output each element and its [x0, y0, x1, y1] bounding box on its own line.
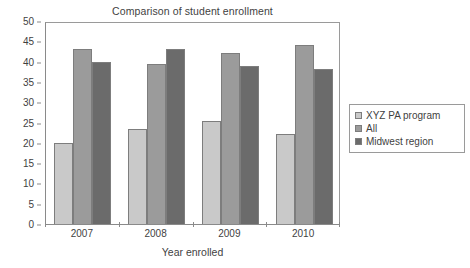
y-axis-tick-mark	[37, 204, 41, 205]
y-axis-tick-mark	[37, 225, 41, 226]
y-axis-tick-mark	[37, 62, 41, 63]
y-axis-tick-label: 15	[23, 159, 34, 169]
y-axis-tick-mark	[37, 42, 41, 43]
legend-swatch-icon	[355, 125, 362, 132]
y-axis-tick-label: 45	[23, 37, 34, 47]
x-axis-title: Year enrolled	[45, 246, 340, 258]
legend-label: All	[366, 124, 377, 134]
y-axis-tick-label: 30	[23, 98, 34, 108]
bar	[240, 66, 259, 224]
bar	[314, 69, 333, 224]
y-axis-tick-mark	[37, 103, 41, 104]
plot-area	[45, 22, 340, 225]
x-axis-tick-label: 2008	[145, 228, 167, 239]
y-axis-tick-mark	[37, 143, 41, 144]
bar	[276, 134, 295, 224]
y-axis-tick-mark	[37, 82, 41, 83]
legend-entry[interactable]: XYZ PA program	[355, 109, 460, 122]
y-axis-tick-mark	[37, 123, 41, 124]
bar-group-2008	[120, 23, 194, 224]
bar	[221, 53, 240, 224]
x-axis-tick-mark	[119, 222, 120, 227]
bar	[166, 49, 185, 224]
legend-label: Midwest region	[366, 137, 433, 147]
legend-entry[interactable]: All	[355, 122, 460, 135]
legend-entry[interactable]: Midwest region	[355, 135, 460, 148]
x-axis: 2007200820092010	[45, 228, 340, 244]
legend-swatch-icon	[355, 138, 362, 145]
legend-swatch-icon	[355, 112, 362, 119]
bar	[295, 45, 314, 224]
y-axis-tick-mark	[37, 184, 41, 185]
bar	[73, 49, 92, 224]
bar	[54, 143, 73, 224]
y-axis-tick-label: 35	[23, 78, 34, 88]
y-axis-tick-label: 10	[23, 179, 34, 189]
x-axis-tick-label: 2009	[218, 228, 240, 239]
chart-figure: Comparison of student enrollment 0510152…	[0, 0, 470, 268]
y-axis-tick-label: 50	[23, 17, 34, 27]
y-axis-tick-label: 0	[28, 220, 34, 230]
x-axis-tick-mark	[339, 222, 340, 227]
bar	[128, 129, 147, 224]
bar-group-2007	[46, 23, 120, 224]
y-axis-tick-label: 20	[23, 139, 34, 149]
y-axis-tick-label: 5	[28, 200, 34, 210]
chart-title: Comparison of student enrollment	[45, 5, 340, 17]
x-axis-tick-mark	[45, 222, 46, 227]
y-axis-tick-label: 40	[23, 58, 34, 68]
bar	[92, 62, 111, 224]
bar-group-2010	[267, 23, 341, 224]
x-axis-tick-label: 2010	[292, 228, 314, 239]
bar	[147, 64, 166, 224]
y-axis: 05101520253035404550	[0, 22, 41, 225]
y-axis-tick-label: 25	[23, 119, 34, 129]
x-axis-tick-mark	[193, 222, 194, 227]
y-axis-tick-mark	[37, 22, 41, 23]
chart-legend: XYZ PA programAllMidwest region	[349, 104, 465, 153]
bar-group-2009	[194, 23, 268, 224]
bar	[202, 121, 221, 224]
y-axis-tick-mark	[37, 164, 41, 165]
x-axis-tick-label: 2007	[71, 228, 93, 239]
x-axis-tick-mark	[266, 222, 267, 227]
legend-label: XYZ PA program	[366, 111, 440, 121]
